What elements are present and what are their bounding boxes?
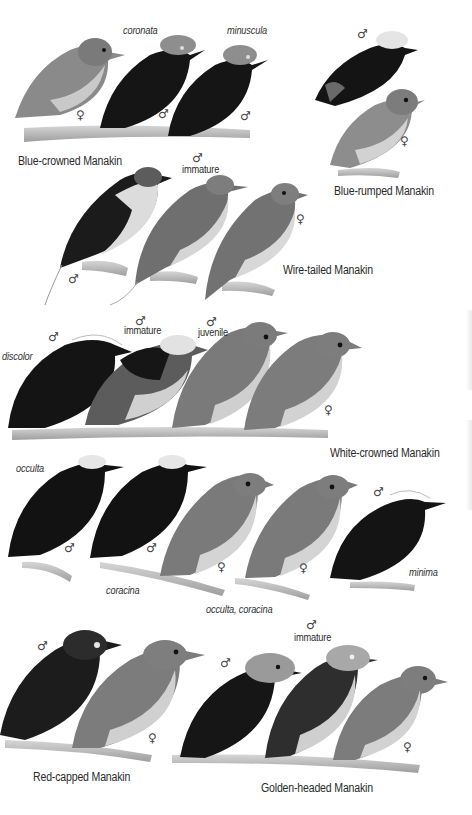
female-symbol: ♀	[324, 404, 333, 416]
female-symbol: ♀	[403, 741, 412, 753]
branch-white-crowned	[12, 427, 328, 440]
illustration-plate: coronata minuscula ♀ ♂ ♂ Blue-crowned Ma…	[0, 0, 472, 815]
female-symbol: ♀	[217, 561, 226, 573]
male-symbol: ♂	[64, 542, 75, 554]
male-symbol: ♂	[158, 108, 169, 120]
subspecies-label-occulta-coracina: occulta, coracina	[206, 603, 272, 615]
species-label-golden-headed-manakin: Golden-headed Manakin	[261, 781, 373, 795]
age-label-juvenile: juvenile	[198, 326, 228, 338]
age-label-immature: immature	[124, 324, 161, 336]
subspecies-label-discolor: discolor	[2, 350, 32, 362]
male-symbol: ♂	[37, 640, 48, 652]
species-label-blue-crowned-manakin: Blue-crowned Manakin	[18, 154, 122, 168]
branch-golden-headed	[172, 754, 420, 773]
species-label-white-crowned-manakin: White-crowned Manakin	[330, 446, 440, 460]
subspecies-label-coronata: coronata	[123, 24, 158, 36]
page-edge-shadow	[466, 420, 472, 510]
branch-blue-crowned	[24, 125, 250, 142]
page-edge-shadow	[466, 310, 472, 390]
male-symbol: ♂	[68, 273, 79, 285]
species-label-wire-tailed-manakin: Wire-tailed Manakin	[283, 263, 373, 277]
species-label-red-capped-manakin: Red-capped Manakin	[33, 770, 130, 784]
species-label-blue-rumped-manakin: Blue-rumped Manakin	[334, 184, 434, 198]
female-symbol: ♀	[76, 109, 85, 121]
female-symbol: ♀	[400, 135, 409, 147]
female-symbol: ♀	[296, 213, 305, 225]
male-symbol: ♂	[48, 331, 59, 343]
age-label-immature: immature	[182, 163, 219, 175]
female-symbol: ♀	[299, 562, 308, 574]
female-symbol: ♀	[148, 732, 157, 744]
subspecies-label-minuscula: minuscula	[227, 24, 267, 36]
male-symbol: ♂	[306, 619, 317, 631]
male-symbol: ♂	[240, 110, 251, 122]
male-symbol: ♂	[373, 486, 384, 498]
bird-illustrations	[0, 0, 472, 815]
subspecies-label-coracina: coracina	[106, 584, 140, 596]
subspecies-label-occulta: occulta	[16, 462, 44, 474]
subspecies-label-minima: minima	[409, 566, 438, 578]
male-symbol: ♂	[220, 657, 231, 669]
age-label-immature: immature	[294, 631, 331, 643]
male-symbol: ♂	[357, 28, 368, 40]
male-symbol: ♂	[146, 542, 157, 554]
